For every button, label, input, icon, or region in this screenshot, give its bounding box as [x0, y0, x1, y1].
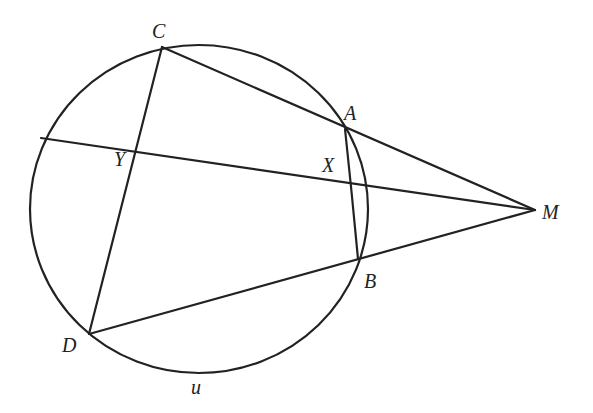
label-circle-u: u	[191, 376, 201, 398]
label-point-y: Y	[114, 148, 127, 170]
label-point-m: M	[541, 201, 560, 223]
label-point-a: A	[342, 102, 357, 124]
diagram-svg: C A Y X M B D u	[0, 0, 593, 413]
label-point-b: B	[364, 270, 376, 292]
label-point-d: D	[61, 334, 77, 356]
label-point-x: X	[321, 154, 335, 176]
geometry-diagram: C A Y X M B D u	[0, 0, 593, 413]
circle-u	[30, 45, 368, 373]
label-point-c: C	[152, 20, 166, 42]
segment-cm	[162, 47, 535, 210]
segment-cd	[89, 47, 162, 334]
segment-dm	[89, 210, 535, 334]
